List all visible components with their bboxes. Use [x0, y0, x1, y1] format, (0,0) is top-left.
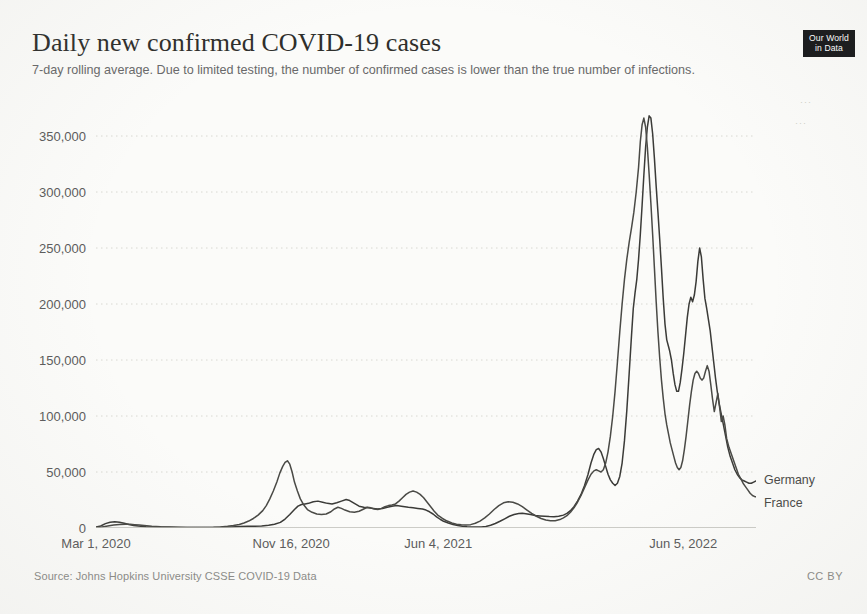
x-tick-label: Nov 16, 2020 [253, 536, 330, 551]
scan-artifact: ··· [800, 97, 812, 107]
series-line-france [96, 118, 756, 527]
series-label-germany: Germany [764, 473, 815, 487]
x-tick-label: Jun 4, 2021 [404, 536, 472, 551]
y-axis-labels: 050,000100,000150,000200,000250,000300,0… [0, 0, 86, 614]
x-tick-label: Mar 1, 2020 [61, 536, 130, 551]
license-note: CC BY [807, 570, 843, 582]
plot-area [96, 108, 756, 528]
x-axis-labels: Mar 1, 2020Nov 16, 2020Jun 4, 2021Jun 5,… [0, 536, 867, 560]
y-tick-label: 150,000 [39, 353, 86, 368]
y-tick-label: 200,000 [39, 297, 86, 312]
y-tick-label: 0 [79, 521, 86, 536]
chart-header: Daily new confirmed COVID-19 cases 7-day… [32, 28, 732, 79]
our-world-in-data-logo[interactable]: Our World in Data [803, 30, 855, 57]
series-lines [96, 116, 756, 528]
y-tick-label: 50,000 [46, 465, 86, 480]
x-tick-label: Jun 5, 2022 [649, 536, 717, 551]
source-note: Source: Johns Hopkins University CSSE CO… [34, 570, 317, 582]
chart-subtitle: 7-day rolling average. Due to limited te… [32, 62, 722, 79]
page-title: Daily new confirmed COVID-19 cases [32, 28, 732, 57]
logo-line-2: in Data [815, 44, 843, 54]
y-tick-label: 300,000 [39, 185, 86, 200]
scan-artifact: ··· [795, 118, 807, 128]
series-label-france: France [764, 496, 803, 510]
y-tick-label: 350,000 [39, 129, 86, 144]
chart-screenshot: Daily new confirmed COVID-19 cases 7-day… [0, 0, 867, 614]
chart-canvas [96, 108, 756, 528]
y-tick-label: 100,000 [39, 409, 86, 424]
y-tick-label: 250,000 [39, 241, 86, 256]
